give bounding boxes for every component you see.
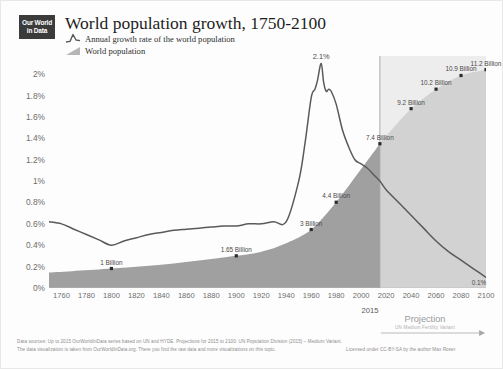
x-axis-tick-label: 1900 bbox=[228, 291, 245, 300]
y-axis-tick-label: 0.4% bbox=[26, 240, 45, 250]
page-title: World population growth, 1750-2100 bbox=[65, 13, 326, 34]
population-point-label: 11.2 Billion bbox=[471, 60, 502, 67]
projection-label: Projection bbox=[405, 314, 446, 324]
projection-arrow bbox=[380, 328, 486, 338]
x-axis-tick-label: 1760 bbox=[53, 291, 70, 300]
population-point-label: 3 Billion bbox=[300, 220, 322, 227]
population-data-point bbox=[378, 142, 381, 145]
growth-rate-end-label: 0.1% bbox=[472, 279, 487, 286]
population-data-point bbox=[110, 267, 113, 270]
y-axis-tick-label: 0.2% bbox=[26, 262, 45, 272]
chart-frame: Our World in Data World population growt… bbox=[0, 0, 503, 369]
population-data-point bbox=[409, 107, 412, 110]
x-axis-tick-label: 2060 bbox=[428, 291, 445, 300]
population-data-point bbox=[335, 201, 338, 204]
x-axis-tick-label: 2040 bbox=[403, 291, 420, 300]
y-axis-tick-label: 0% bbox=[33, 283, 45, 293]
plot-area: 2.1%1 Billion1.65 Billion3 Billion4.4 Bi… bbox=[49, 56, 486, 288]
population-data-point bbox=[434, 88, 437, 91]
y-axis-tick-label: 1.6% bbox=[26, 112, 45, 122]
chart-canvas bbox=[49, 56, 486, 288]
x-axis-tick-label: 1880 bbox=[203, 291, 220, 300]
population-point-label: 4.4 Billion bbox=[322, 192, 350, 199]
projection-divider-year: 2015 bbox=[362, 306, 379, 315]
x-axis-tick-label: 2100 bbox=[478, 291, 495, 300]
x-axis: 1760178018001820184018601880190019201940… bbox=[49, 290, 486, 304]
population-data-point bbox=[310, 228, 313, 231]
population-point-label: 1 Billion bbox=[100, 259, 122, 266]
x-axis-tick-label: 2020 bbox=[378, 291, 395, 300]
population-data-point bbox=[235, 254, 238, 257]
y-axis-tick-label: 1% bbox=[33, 176, 45, 186]
y-axis: 0%0.2%0.4%0.6%0.8%1%1.2%1.4%1.6%1.8%2% bbox=[9, 56, 45, 288]
footer-attribution: The data visualization is taken from Our… bbox=[17, 347, 276, 352]
population-point-label: 10.2 Billion bbox=[420, 79, 451, 86]
x-axis-tick-label: 1840 bbox=[153, 291, 170, 300]
footer-license: Licensed under CC-BY-SA by the author Ma… bbox=[346, 347, 456, 352]
y-axis-tick-label: 2% bbox=[33, 69, 45, 79]
x-axis-tick-label: 1780 bbox=[78, 291, 95, 300]
x-axis-tick-label: 1940 bbox=[278, 291, 295, 300]
y-axis-tick-label: 1.4% bbox=[26, 133, 45, 143]
x-axis-tick-label: 1980 bbox=[328, 291, 345, 300]
population-data-point bbox=[459, 74, 462, 77]
population-point-label: 7.4 Billion bbox=[366, 134, 394, 141]
owid-logo-line2: in Data bbox=[19, 27, 55, 35]
x-axis-tick-label: 1920 bbox=[253, 291, 270, 300]
x-axis-tick-label: 1820 bbox=[128, 291, 145, 300]
population-data-point bbox=[484, 68, 486, 71]
footer-data-sources: Data sources: Up to 2015 OurWorldInData … bbox=[17, 339, 342, 344]
legend-item-world-population: World population bbox=[85, 46, 145, 56]
x-axis-tick-label: 2000 bbox=[353, 291, 370, 300]
population-point-label: 9.2 Billion bbox=[397, 99, 425, 106]
population-point-label: 1.65 Billion bbox=[221, 246, 252, 253]
x-axis-tick-label: 1860 bbox=[178, 291, 195, 300]
owid-logo: Our World in Data bbox=[19, 15, 55, 39]
y-axis-tick-label: 0.8% bbox=[26, 197, 45, 207]
x-axis-tick-label: 1960 bbox=[303, 291, 320, 300]
legend-item-growth-rate: Annual growth rate of the world populati… bbox=[85, 34, 235, 44]
owid-logo-line1: Our World bbox=[19, 19, 55, 27]
y-axis-tick-label: 1.2% bbox=[26, 155, 45, 165]
area-wedge-icon bbox=[65, 45, 81, 56]
x-axis-tick-label: 2080 bbox=[453, 291, 470, 300]
line-peak-icon bbox=[65, 33, 81, 44]
growth-rate-peak-label: 2.1% bbox=[313, 52, 330, 61]
y-axis-tick-label: 0.6% bbox=[26, 219, 45, 229]
x-axis-tick-label: 1800 bbox=[103, 291, 120, 300]
y-axis-tick-label: 1.8% bbox=[26, 91, 45, 101]
